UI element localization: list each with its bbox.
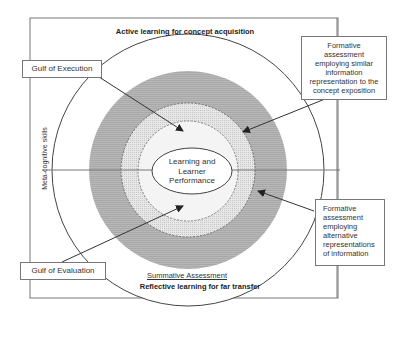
- gulf-of-execution-box: Gulf of Execution: [22, 60, 102, 78]
- formative-similar-box: Formative assessment employing similar i…: [301, 36, 387, 100]
- center-label-line3: Performance: [157, 176, 227, 186]
- formative-alternative-box: Formative assessment employing alternati…: [315, 199, 385, 266]
- top-title: Active learning for concept acquisition: [100, 27, 270, 36]
- meta-cognitive-label: Meta-cognitive skills: [41, 119, 48, 199]
- center-label-line1: Learning and: [157, 157, 227, 167]
- summative-assessment-label: Summative Assessment: [147, 271, 227, 280]
- bottom-title: Reflective learning for far transfer: [120, 282, 280, 291]
- gulf-of-evaluation-box: Gulf of Evaluation: [20, 262, 106, 280]
- center-label-line2: Learner: [157, 167, 227, 177]
- center-label: Learning and Learner Performance: [157, 157, 227, 186]
